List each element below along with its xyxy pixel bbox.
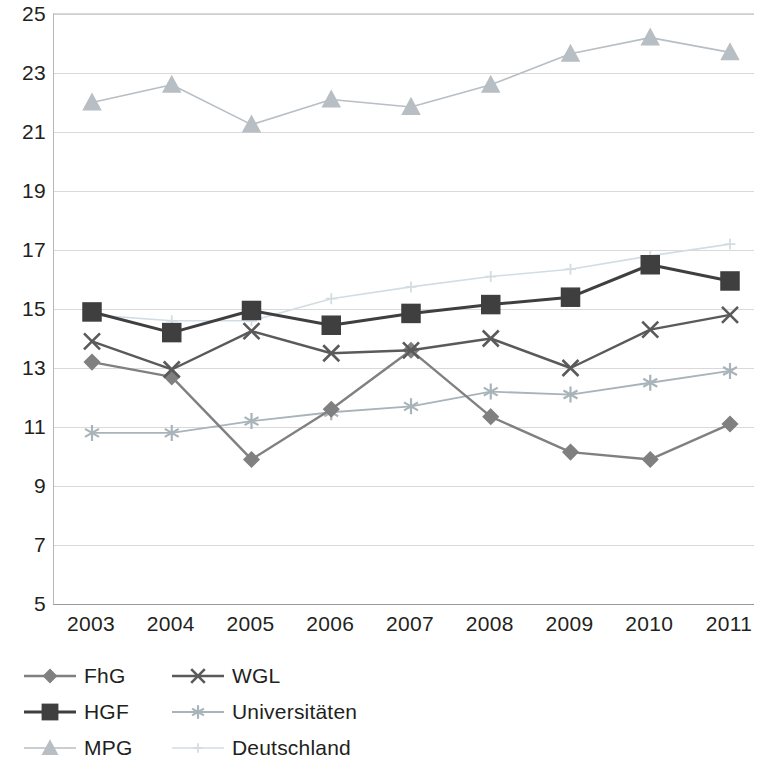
series-layer [54, 14, 754, 604]
legend-label: HGF [84, 701, 129, 723]
data-point-square [721, 272, 739, 290]
legend-label: MPG [84, 737, 132, 759]
plot-frame [53, 13, 754, 605]
x-tick-label: 2003 [67, 612, 115, 636]
data-point-square [402, 304, 420, 322]
y-tick-label: 19 [22, 180, 46, 201]
data-point-square [562, 288, 580, 306]
x-tick-label: 2007 [386, 612, 434, 636]
data-point-plus [565, 264, 576, 275]
legend-item-hgf[interactable]: HGF [22, 694, 170, 730]
x-tick-label: 2010 [625, 612, 673, 636]
x-tick-label: 2005 [227, 612, 275, 636]
data-point-x [563, 360, 579, 376]
data-point-diamond [85, 355, 100, 370]
data-point-diamond [44, 670, 57, 683]
legend-marker-square-icon [22, 701, 78, 723]
y-tick-label: 11 [24, 416, 46, 437]
y-tick-label: 25 [22, 3, 46, 24]
data-point-plus [193, 743, 202, 752]
legend-label: Universitäten [232, 701, 357, 723]
series-hgf [83, 256, 739, 342]
data-point-triangle [642, 29, 659, 45]
data-point-triangle [323, 91, 340, 107]
legend-item-wgl[interactable]: WGL [170, 658, 280, 694]
chart-legend: FhGWGLHGFUniversitätenMPGDeutschland [22, 658, 442, 766]
series-mpg [84, 29, 739, 132]
y-axis: 2523211917151311975 [0, 0, 46, 620]
data-point-triangle [243, 116, 260, 132]
data-point-square [42, 704, 57, 719]
y-tick-label: 15 [22, 298, 46, 319]
data-point-square [322, 316, 340, 334]
chart-root: 2523211917151311975 20032004200520062007… [0, 0, 760, 767]
data-point-plus [725, 239, 736, 250]
data-point-plus [326, 293, 337, 304]
data-point-x [84, 333, 100, 349]
data-point-square [83, 303, 101, 321]
data-point-diamond [723, 417, 738, 432]
legend-item-fhg[interactable]: FhG [22, 658, 170, 694]
legend-marker-x-icon [170, 665, 226, 687]
data-point-plus [485, 271, 496, 282]
data-point-triangle [482, 76, 499, 92]
data-point-plus [406, 281, 417, 292]
data-point-square [243, 301, 261, 319]
legend-item-deutschland[interactable]: Deutschland [170, 730, 351, 766]
x-tick-label: 2009 [546, 612, 594, 636]
legend-label: WGL [232, 665, 280, 687]
legend-label: FhG [84, 665, 125, 687]
x-tick-label: 2008 [466, 612, 514, 636]
y-tick-label: 7 [34, 534, 46, 555]
series-universit-ten [85, 363, 737, 441]
x-tick-label: 2004 [147, 612, 195, 636]
data-point-diamond [563, 445, 578, 460]
y-tick-label: 17 [22, 239, 46, 260]
data-point-triangle [163, 76, 180, 92]
y-tick-label: 13 [22, 357, 46, 378]
legend-marker-plus-icon [170, 737, 226, 759]
chart-plot-area: 2523211917151311975 20032004200520062007… [0, 0, 760, 620]
legend-row: MPGDeutschland [22, 730, 442, 766]
legend-row: HGFUniversitäten [22, 694, 442, 730]
legend-marker-triangle-icon [22, 737, 78, 759]
legend-item-mpg[interactable]: MPG [22, 730, 170, 766]
y-tick-label: 21 [22, 121, 46, 142]
data-point-diamond [643, 452, 658, 467]
data-point-square [163, 324, 181, 342]
y-tick-label: 9 [34, 475, 46, 496]
legend-marker-diamond-icon [22, 665, 78, 687]
legend-marker-asterisk-icon [170, 701, 226, 723]
x-tick-label: 2011 [706, 612, 752, 636]
data-point-square [641, 256, 659, 274]
x-tick-label: 2006 [306, 612, 354, 636]
y-tick-label: 23 [22, 62, 46, 83]
y-tick-label: 5 [34, 593, 46, 614]
legend-label: Deutschland [232, 737, 351, 759]
legend-item-universit-ten[interactable]: Universitäten [170, 694, 357, 730]
legend-row: FhGWGL [22, 658, 442, 694]
x-axis: 200320042005200620072008200920102011 [53, 612, 753, 646]
data-point-square [482, 296, 500, 314]
